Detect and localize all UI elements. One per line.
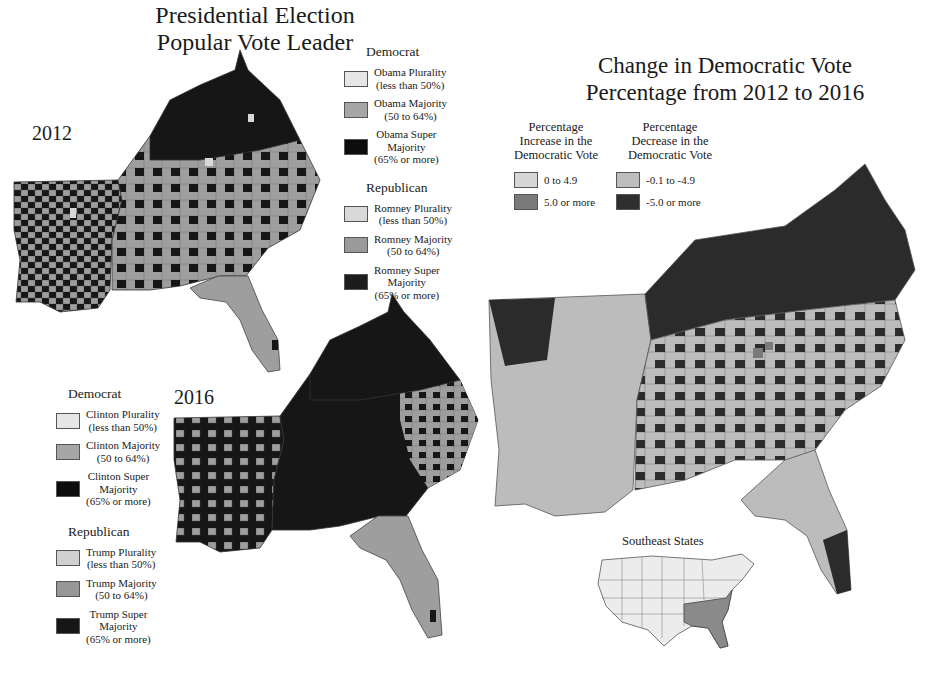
title-line-2: Percentage from 2012 to 2016 bbox=[540, 79, 910, 106]
legend-item-obama-majority: Obama Majority(50 to 64%) bbox=[344, 97, 484, 122]
legend-heading-republican: Republican bbox=[366, 180, 484, 196]
legend-sublabel: (less than 50%) bbox=[86, 421, 160, 434]
change-title: Change in Democratic Vote Percentage fro… bbox=[540, 52, 910, 106]
legend-label: Trump Plurality bbox=[86, 546, 156, 559]
legend-sublabel: (50 to 64%) bbox=[374, 245, 453, 258]
heading-line: Increase in the bbox=[500, 134, 612, 148]
heading-line: Decrease in the bbox=[614, 134, 726, 148]
legend-label: Obama Majority bbox=[374, 97, 447, 110]
legend-sublabel: (65% or more) bbox=[86, 633, 151, 646]
legend-label: Clinton Majority bbox=[86, 439, 160, 452]
inset-title: Southeast States bbox=[622, 534, 704, 549]
swatch-clinton-super bbox=[56, 481, 80, 497]
heading-line: Percentage bbox=[614, 120, 726, 134]
legend-sublabel: Majority bbox=[374, 276, 440, 289]
swatch-trump-majority bbox=[56, 581, 80, 597]
legend-item-trump-majority: Trump Majority(50 to 64%) bbox=[56, 577, 186, 602]
legend-item-trump-super: Trump SuperMajority(65% or more) bbox=[56, 608, 186, 646]
legend-item-clinton-majority: Clinton Majority(50 to 64%) bbox=[56, 439, 186, 464]
legend-item-trump-plurality: Trump Plurality(less than 50%) bbox=[56, 546, 186, 571]
map-2016 bbox=[160, 290, 490, 660]
legend-item-clinton-plurality: Clinton Plurality(less than 50%) bbox=[56, 408, 186, 433]
legend-sublabel: (less than 50%) bbox=[374, 214, 452, 227]
legend-item-romney-plurality: Romney Plurality(less than 50%) bbox=[344, 202, 484, 227]
legend-2012: Democrat Obama Plurality(less than 50%) … bbox=[344, 44, 484, 301]
legend-sublabel: (less than 50%) bbox=[86, 558, 156, 571]
swatch-obama-majority bbox=[344, 102, 368, 118]
title-line-1: Presidential Election bbox=[140, 2, 370, 29]
legend-sublabel: (50 to 64%) bbox=[86, 589, 157, 602]
legend-sublabel: (65% or more) bbox=[374, 153, 439, 166]
swatch-romney-majority bbox=[344, 237, 368, 253]
legend-label: Clinton Plurality bbox=[86, 408, 160, 421]
legend-heading-democrat: Democrat bbox=[366, 44, 484, 60]
legend-heading-increase: Percentage Increase in the Democratic Vo… bbox=[500, 120, 612, 162]
legend-sublabel: (50 to 64%) bbox=[86, 452, 160, 465]
legend-label: Trump Super bbox=[86, 608, 151, 621]
legend-item-romney-majority: Romney Majority(50 to 64%) bbox=[344, 233, 484, 258]
inset-us-map bbox=[592, 550, 762, 660]
legend-sublabel: Majority bbox=[86, 483, 151, 496]
legend-label: Romney Super bbox=[374, 264, 440, 277]
legend-label: Obama Plurality bbox=[374, 66, 446, 79]
legend-item-clinton-super: Clinton SuperMajority(65% or more) bbox=[56, 470, 186, 508]
legend-heading-decrease: Percentage Decrease in the Democratic Vo… bbox=[614, 120, 726, 162]
legend-label: Romney Majority bbox=[374, 233, 453, 246]
swatch-romney-super bbox=[344, 274, 368, 290]
legend-sublabel: Majority bbox=[374, 141, 439, 154]
legend-label: Clinton Super bbox=[86, 470, 151, 483]
legend-item-obama-super: Obama SuperMajority(65% or more) bbox=[344, 128, 484, 166]
swatch-obama-super bbox=[344, 139, 368, 155]
legend-2016: Democrat Clinton Plurality(less than 50%… bbox=[56, 386, 186, 645]
legend-heading-republican: Republican bbox=[68, 524, 186, 540]
legend-heading-democrat: Democrat bbox=[68, 386, 186, 402]
swatch-obama-plurality bbox=[344, 71, 368, 87]
legend-label: Obama Super bbox=[374, 128, 439, 141]
swatch-trump-plurality bbox=[56, 550, 80, 566]
swatch-clinton-majority bbox=[56, 444, 80, 460]
heading-line: Percentage bbox=[500, 120, 612, 134]
swatch-romney-plurality bbox=[344, 206, 368, 222]
legend-sublabel: Majority bbox=[86, 620, 151, 633]
legend-item-obama-plurality: Obama Plurality(less than 50%) bbox=[344, 66, 484, 91]
legend-sublabel: (less than 50%) bbox=[374, 79, 446, 92]
legend-label: Trump Majority bbox=[86, 577, 157, 590]
swatch-clinton-plurality bbox=[56, 413, 80, 429]
swatch-trump-super bbox=[56, 618, 80, 634]
title-line-1: Change in Democratic Vote bbox=[540, 52, 910, 79]
legend-sublabel: (50 to 64%) bbox=[374, 110, 447, 123]
legend-label: Romney Plurality bbox=[374, 202, 452, 215]
legend-sublabel: (65% or more) bbox=[86, 495, 151, 508]
